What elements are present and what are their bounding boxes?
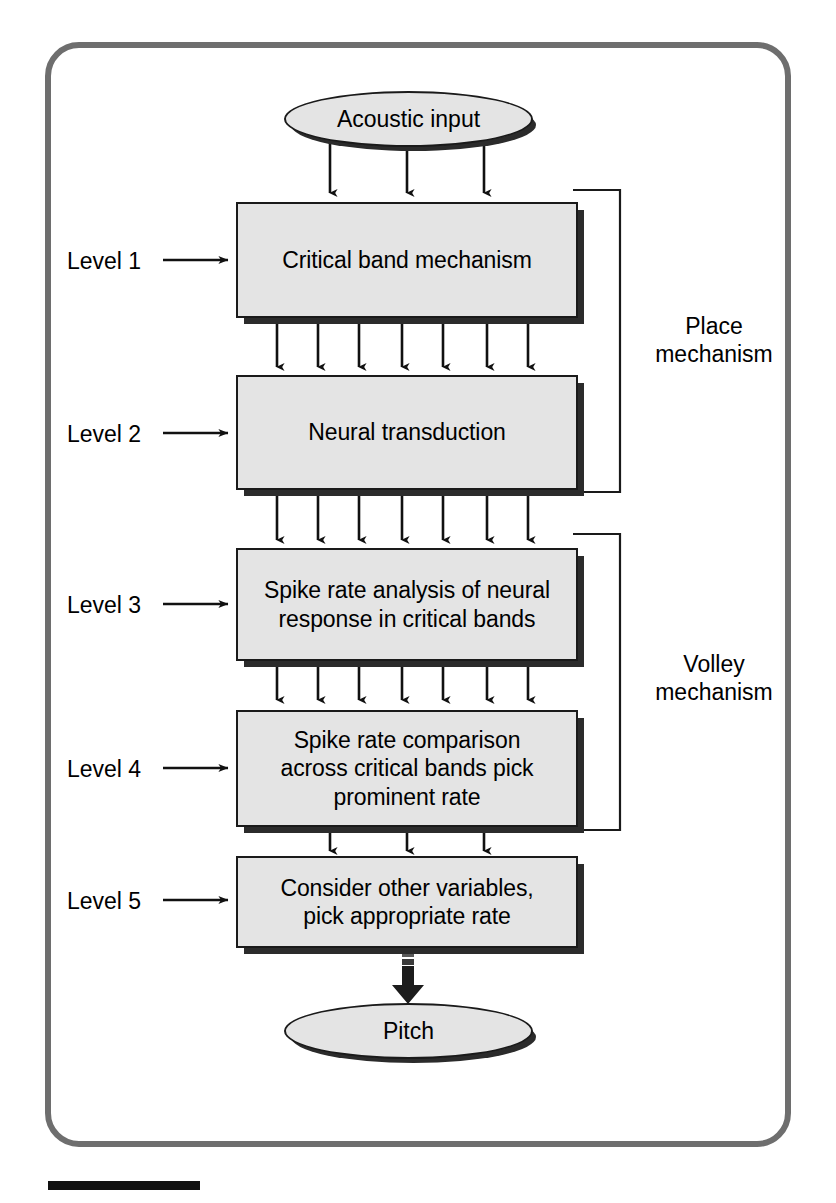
- node-level3-spike-rate-analysis[interactable]: Spike rate analysis of neural response i…: [236, 548, 578, 661]
- arrows-input-to-level1: [330, 143, 484, 193]
- node-pitch-output[interactable]: Pitch: [284, 1003, 533, 1059]
- level-label-5: Level 5: [67, 888, 141, 915]
- scale-bar: [48, 1181, 200, 1190]
- node-pitch-output-label: Pitch: [383, 1018, 434, 1045]
- node-level1-label: Critical band mechanism: [272, 246, 542, 274]
- figure-root: Acoustic input Critical band mechanism N…: [0, 0, 836, 1203]
- bracket-volley-mechanism: [573, 534, 620, 830]
- node-acoustic-input[interactable]: Acoustic input: [284, 91, 533, 147]
- node-level2-label: Neural transduction: [298, 418, 516, 446]
- node-level3-label: Spike rate analysis of neural response i…: [254, 576, 560, 632]
- bracket-label-volley-mechanism: Volley mechanism: [640, 650, 788, 706]
- arrows-level1-to-level2: [277, 320, 528, 367]
- level-label-2: Level 2: [67, 421, 141, 448]
- node-level5-consider-other-variables[interactable]: Consider other variables, pick appropria…: [236, 856, 578, 948]
- node-level1-critical-band-mechanism[interactable]: Critical band mechanism: [236, 202, 578, 318]
- bracket-place-mechanism: [573, 190, 620, 492]
- node-level2-neural-transduction[interactable]: Neural transduction: [236, 375, 578, 490]
- node-level4-spike-rate-comparison[interactable]: Spike rate comparison across critical ba…: [236, 710, 578, 827]
- level-label-3: Level 3: [67, 592, 141, 619]
- node-acoustic-input-label: Acoustic input: [337, 106, 480, 133]
- level-label-1: Level 1: [67, 248, 141, 275]
- level-label-4: Level 4: [67, 756, 141, 783]
- level-pointer-arrows: [163, 260, 228, 900]
- arrows-level4-to-level5: [330, 829, 484, 851]
- arrows-level2-to-level3: [277, 492, 528, 540]
- block-arrow-level5-to-pitch: [392, 951, 424, 1004]
- node-level5-label: Consider other variables, pick appropria…: [270, 874, 543, 930]
- arrows-level3-to-level4: [277, 663, 528, 700]
- node-level4-label: Spike rate comparison across critical ba…: [270, 726, 543, 810]
- bracket-label-place-mechanism: Place mechanism: [640, 312, 788, 368]
